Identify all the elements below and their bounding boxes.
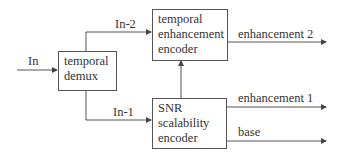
temporal-encoder-label-line-3: encoder bbox=[158, 42, 227, 57]
temporal-encoder-label-line-2: enhancement bbox=[158, 27, 227, 42]
in-2-label: In-2 bbox=[115, 17, 136, 31]
temporal-enhancement-encoder-block: temporal enhancement encoder bbox=[152, 9, 228, 61]
in-1-label: In-1 bbox=[113, 105, 134, 119]
demux-label-line-1: temporal bbox=[64, 54, 116, 69]
enhancement-2-label: enhancement 2 bbox=[238, 27, 313, 41]
temporal-encoder-label-line-1: temporal bbox=[158, 12, 227, 27]
temporal-demux-block: temporal demux bbox=[58, 51, 117, 91]
base-label: base bbox=[238, 125, 260, 139]
scalable-encoder-diagram: temporal demux temporal enhancement enco… bbox=[0, 0, 345, 156]
snr-scalability-encoder-block: SNR scalability encoder bbox=[152, 98, 227, 149]
snr-encoder-label-line-2: scalability bbox=[158, 116, 226, 131]
snr-encoder-label-line-1: SNR bbox=[158, 101, 226, 116]
snr-encoder-label-line-3: encoder bbox=[158, 131, 226, 146]
in-2-arrow bbox=[86, 32, 151, 51]
input-label: In bbox=[28, 54, 38, 68]
demux-label-line-2: demux bbox=[64, 69, 116, 84]
enhancement-1-label: enhancement 1 bbox=[238, 91, 313, 105]
